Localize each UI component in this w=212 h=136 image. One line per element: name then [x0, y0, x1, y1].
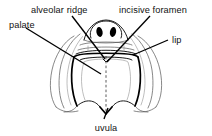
label-alveolar-ridge: alveolar ridge — [31, 5, 88, 15]
label-palate: palate — [9, 20, 35, 30]
label-lip: lip — [172, 35, 182, 45]
label-uvula: uvula — [95, 123, 118, 133]
anatomy-figure: palate alveolar ridge incisive foramen l… — [0, 0, 212, 136]
label-incisive-foramen: incisive foramen — [119, 5, 187, 15]
